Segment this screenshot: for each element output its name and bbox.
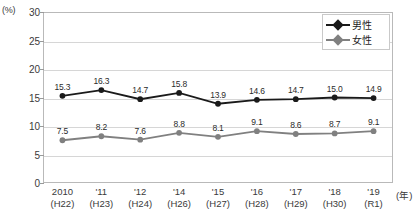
legend-label: 男性 <box>350 17 372 32</box>
data-value-label: 16.3 <box>93 76 109 86</box>
y-axis-tick-mark <box>39 155 44 156</box>
x-axis-year: '18 <box>328 186 340 197</box>
x-axis-unit-label: (年) <box>396 188 412 202</box>
data-value-label: 9.1 <box>251 117 262 127</box>
data-value-label: 8.7 <box>329 119 340 129</box>
x-axis-tick: 2010(H22) <box>51 186 75 209</box>
data-value-label: 9.1 <box>368 117 379 127</box>
x-axis-era: (H29) <box>284 198 308 210</box>
y-axis-tick-mark <box>39 126 44 127</box>
legend-label: 女性 <box>350 32 372 47</box>
data-value-label: 14.9 <box>366 84 382 94</box>
data-value-label: 14.7 <box>288 85 304 95</box>
y-axis-tick-label: 10 <box>14 121 40 132</box>
y-axis-tick-label: 20 <box>14 64 40 75</box>
data-value-label: 8.1 <box>212 123 223 133</box>
x-axis-year: '11 <box>95 186 107 197</box>
y-axis-tick-mark <box>39 98 44 99</box>
legend-item-male: 男性 <box>326 17 386 32</box>
x-axis-era: (R1) <box>364 198 382 210</box>
y-axis-tick-label: 15 <box>14 92 40 103</box>
line-chart: (%) 051015202530 15.316.314.715.813.914.… <box>0 0 419 224</box>
data-value-label: 7.6 <box>135 126 146 136</box>
x-axis-tick: '17(H29) <box>284 186 308 209</box>
x-axis-year: '17 <box>290 186 302 197</box>
y-axis-tick-labels: 051015202530 <box>12 12 40 183</box>
y-axis-tick-mark <box>39 41 44 42</box>
x-axis-year: '14 <box>173 186 185 197</box>
x-axis-year: '16 <box>251 186 263 197</box>
y-axis-tick-mark <box>39 69 44 70</box>
data-value-label: 7.5 <box>57 126 68 136</box>
y-axis-tick-label: 5 <box>14 149 40 160</box>
data-value-label: 13.9 <box>210 90 226 100</box>
x-axis-year: '12 <box>134 186 146 197</box>
x-axis-tick: '14(H26) <box>167 186 191 209</box>
data-value-label: 14.6 <box>249 86 265 96</box>
legend-marker-icon <box>326 34 350 45</box>
x-axis-tick-labels: 2010(H22)'11(H23)'12(H24)'14(H26)'15(H27… <box>43 186 393 220</box>
x-axis-tick: '18(H30) <box>323 186 347 209</box>
x-axis-tick: '16(H28) <box>245 186 269 209</box>
x-axis-tick: '15(H27) <box>206 186 230 209</box>
x-axis-tick: '19(R1) <box>364 186 382 209</box>
x-axis-era: (H23) <box>89 198 113 210</box>
data-value-label: 8.8 <box>174 119 185 129</box>
data-value-label: 14.7 <box>132 85 148 95</box>
y-axis-tick-mark <box>39 183 44 184</box>
data-value-label: 8.6 <box>290 120 301 130</box>
x-axis-era: (H27) <box>206 198 230 210</box>
y-axis-tick-label: 0 <box>14 178 40 189</box>
x-axis-era: (H24) <box>128 198 152 210</box>
data-value-label: 15.3 <box>55 82 71 92</box>
data-value-label: 15.8 <box>171 79 187 89</box>
x-axis-tick: '12(H24) <box>128 186 152 209</box>
x-axis-era: (H28) <box>245 198 269 210</box>
legend-item-female: 女性 <box>326 32 386 47</box>
legend-marker-icon <box>326 19 350 30</box>
y-axis-tick-label: 25 <box>14 35 40 46</box>
x-axis-era: (H26) <box>167 198 191 210</box>
data-value-label: 8.2 <box>96 122 107 132</box>
chart-legend: 男性女性 <box>322 14 390 50</box>
x-axis-era: (H22) <box>51 198 75 210</box>
x-axis-year: '19 <box>367 186 379 197</box>
x-axis-year: '15 <box>212 186 224 197</box>
x-axis-tick: '11(H23) <box>89 186 113 209</box>
data-value-label: 15.0 <box>327 84 343 94</box>
x-axis-era: (H30) <box>323 198 347 210</box>
x-axis-year: 2010 <box>52 186 73 197</box>
y-axis-tick-label: 30 <box>14 7 40 18</box>
y-axis-tick-mark <box>39 12 44 13</box>
